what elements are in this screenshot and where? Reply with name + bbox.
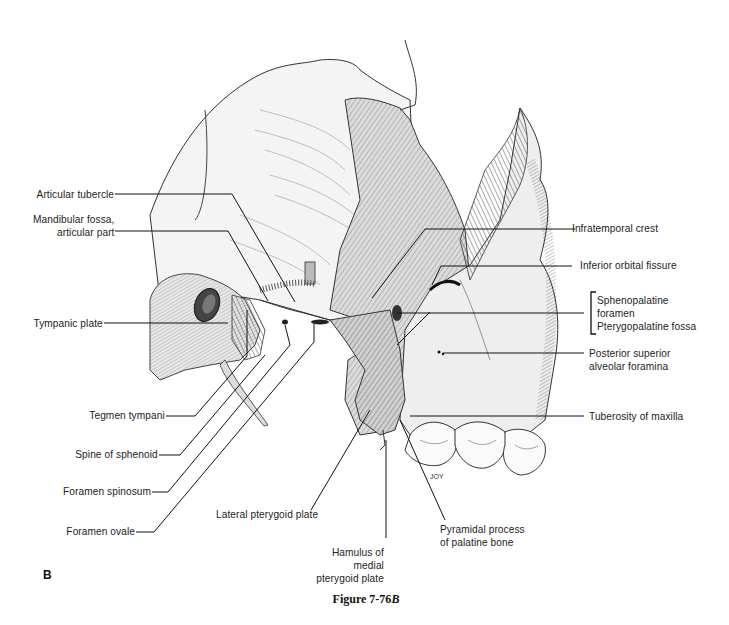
label-mandibular-fossa: Mandibular fossa, articular part xyxy=(33,213,114,239)
artist-signature: JOY xyxy=(430,473,444,480)
label-hamulus: Hamulus of medial pterygoid plate xyxy=(316,546,384,585)
label-mandibular-fossa-line2: articular part xyxy=(33,226,114,239)
label-psa-line2: alveolar foramina xyxy=(589,360,670,373)
label-inferior-orbital-fissure: Inferior orbital fissure xyxy=(580,259,677,272)
alveolar-foramen-dot xyxy=(438,351,441,354)
label-hamulus-line2: medial xyxy=(316,559,384,572)
label-pyramidal-process: Pyramidal process of palatine bone xyxy=(440,523,525,549)
label-foramen-ovale: Foramen ovale xyxy=(66,525,135,538)
foramen-ovale-shape xyxy=(311,320,329,325)
figure-caption: Figure 7-76B xyxy=(316,592,416,607)
label-articular-tubercle: Articular tubercle xyxy=(36,188,114,201)
label-sphenopalatine-line1: Sphenopalatine xyxy=(597,294,696,307)
label-infratemporal-crest: Infratemporal crest xyxy=(572,222,658,235)
label-psa-line1: Posterior superior xyxy=(589,347,670,360)
label-sphenopalatine-foramen: Sphenopalatine foramen Pterygopalatine f… xyxy=(597,294,696,333)
label-posterior-superior-alveolar: Posterior superior alveolar foramina xyxy=(589,347,670,373)
label-mandibular-fossa-line1: Mandibular fossa, xyxy=(33,213,114,226)
label-pyramidal-line2: of palatine bone xyxy=(440,536,525,549)
label-pterygopalatine-fossa: Pterygopalatine fossa xyxy=(597,320,696,333)
label-hamulus-line3: pterygoid plate xyxy=(316,572,384,585)
caption-suffix: B xyxy=(391,592,399,606)
label-foramen-spinosum: Foramen spinosum xyxy=(63,485,151,498)
foramen-spinosum-shape xyxy=(282,320,288,325)
label-bracket xyxy=(591,292,596,334)
label-tympanic-plate: Tympanic plate xyxy=(34,317,103,330)
label-sphenopalatine-line2: foramen xyxy=(597,307,696,320)
label-lateral-pterygoid-plate: Lateral pterygoid plate xyxy=(216,508,318,521)
label-spine-of-sphenoid: Spine of sphenoid xyxy=(75,448,158,461)
caption-prefix: Figure 7-76 xyxy=(333,592,392,606)
label-pyramidal-line1: Pyramidal process xyxy=(440,523,525,536)
label-tegmen-tympani: Tegmen tympani xyxy=(90,409,165,422)
zygomatic-arch-cut xyxy=(305,262,315,284)
panel-letter: B xyxy=(43,568,52,582)
molar-teeth xyxy=(405,422,545,475)
label-hamulus-line1: Hamulus of xyxy=(316,546,384,559)
label-tuberosity-of-maxilla: Tuberosity of maxilla xyxy=(589,410,683,423)
